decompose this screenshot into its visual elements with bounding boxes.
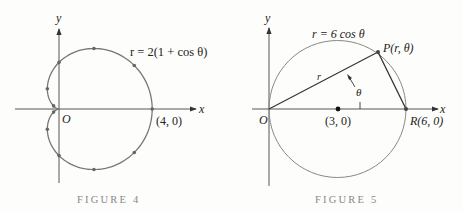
arrow-head	[347, 74, 352, 80]
origin-label: O	[259, 113, 268, 127]
figure-caption: FIGURE 5	[315, 194, 378, 205]
curve-point	[133, 151, 137, 155]
origin-label: O	[62, 112, 71, 126]
equation-label: r = 2(1 + cos θ)	[130, 45, 207, 59]
curve-point	[57, 61, 61, 65]
figures-canvas: y x O (4, 0) r = 2(1 + cos θ) FIGURE 4 y…	[0, 0, 463, 211]
segment-PR	[378, 52, 406, 109]
x-axis-label: x	[198, 102, 205, 116]
curve-point	[46, 87, 50, 91]
point-P	[376, 50, 380, 54]
point-R-label: R(6, 0)	[409, 114, 443, 128]
segment-label: r	[317, 71, 321, 82]
center-point	[336, 107, 341, 112]
curve-point	[92, 168, 96, 172]
point-P-label: P(r, θ)	[382, 41, 414, 55]
point-label: (4, 0)	[156, 114, 182, 128]
point-R	[404, 107, 408, 111]
figure-4: y x O (4, 0) r = 2(1 + cos θ) FIGURE 4	[15, 11, 207, 205]
segment-OP	[269, 52, 378, 109]
curve-point	[52, 104, 56, 108]
curve-point	[92, 47, 96, 51]
y-axis-label: y	[55, 11, 62, 25]
angle-label: θ	[356, 86, 362, 98]
equation-label: r = 6 cos θ	[312, 27, 365, 41]
curve-point	[52, 110, 56, 114]
curve-point	[57, 154, 61, 158]
figure-5: y x O (3, 0) R(6, 0) P(r, θ) r = 6 cos θ…	[252, 11, 446, 205]
curve-point	[133, 64, 137, 68]
y-axis-label: y	[264, 11, 271, 25]
center-label: (3, 0)	[325, 114, 351, 128]
figure-caption: FIGURE 4	[77, 194, 140, 205]
curve-point	[150, 107, 154, 111]
curve-point	[46, 127, 50, 131]
